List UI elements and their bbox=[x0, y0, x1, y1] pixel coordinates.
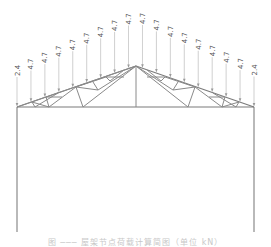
load-value-label: 4.7 bbox=[97, 26, 105, 37]
load-value-label: 4.7 bbox=[153, 19, 161, 30]
load-arrow: 2.4 bbox=[251, 64, 259, 107]
load-arrow: 4.7 bbox=[83, 33, 91, 83]
load-value-label: 2.4 bbox=[251, 64, 259, 76]
load-arrow: 4.7 bbox=[97, 26, 105, 77]
load-value-label: 4.7 bbox=[125, 13, 133, 24]
load-arrow: 4.7 bbox=[41, 52, 49, 97]
figure-caption: 图 ─── 屋架节点荷载计算简图（单位 kN） bbox=[0, 236, 271, 247]
load-arrow: 4.7 bbox=[153, 19, 161, 72]
load-arrow: 4.7 bbox=[209, 45, 217, 92]
load-arrow: 4.7 bbox=[139, 13, 147, 68]
load-value-label: 4.7 bbox=[69, 39, 77, 50]
load-arrow: 4.7 bbox=[181, 32, 189, 82]
load-value-label: 4.7 bbox=[209, 45, 217, 56]
load-arrow: 4.7 bbox=[195, 39, 203, 88]
load-arrow: 4.7 bbox=[55, 46, 63, 93]
load-value-label: 4.7 bbox=[195, 39, 203, 50]
load-arrow: 4.7 bbox=[167, 26, 175, 78]
load-value-label: 4.7 bbox=[181, 32, 189, 43]
load-arrow: 4.7 bbox=[69, 39, 77, 87]
load-value-label: 2.4 bbox=[14, 64, 22, 76]
load-value-label: 4.7 bbox=[55, 46, 63, 57]
load-arrow: 4.7 bbox=[237, 58, 245, 102]
load-arrow: 4.7 bbox=[223, 52, 231, 97]
load-value-label: 4.7 bbox=[167, 26, 175, 37]
left-web-members bbox=[17, 66, 136, 107]
load-value-label: 4.7 bbox=[139, 13, 147, 24]
load-value-label: 4.7 bbox=[223, 52, 231, 63]
load-value-label: 4.7 bbox=[83, 33, 91, 44]
load-arrow: 4.7 bbox=[111, 20, 119, 73]
load-arrow: 2.4 bbox=[14, 64, 22, 106]
right-web-members bbox=[136, 66, 239, 107]
load-value-label: 4.7 bbox=[237, 58, 245, 69]
load-value-label: 4.7 bbox=[41, 52, 49, 63]
load-value-label: 4.7 bbox=[27, 58, 35, 69]
load-arrow: 4.7 bbox=[125, 13, 133, 68]
load-value-label: 4.7 bbox=[111, 20, 119, 31]
load-arrow: 4.7 bbox=[27, 58, 35, 101]
